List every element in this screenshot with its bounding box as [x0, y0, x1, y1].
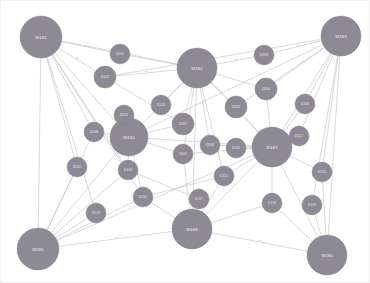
graph-edge[interactable] — [51, 55, 89, 123]
graph-node[interactable]: D102 — [94, 66, 116, 88]
graph-edge[interactable] — [323, 56, 338, 162]
node-label: W182 — [191, 66, 203, 71]
graph-node[interactable]: W186 — [307, 235, 347, 275]
node-label: W183 — [335, 34, 347, 39]
graph-node[interactable]: W182 — [177, 48, 217, 88]
node-label: D119 — [308, 203, 316, 207]
node-label: W184 — [123, 135, 135, 140]
graph-node[interactable]: W188 — [172, 209, 212, 249]
node-label: W188 — [186, 227, 198, 232]
node-label: D111 — [179, 152, 187, 156]
node-label: W187 — [266, 145, 278, 150]
graph-node[interactable]: D110 — [226, 138, 246, 158]
graph-node[interactable]: W185 — [17, 228, 59, 270]
graph-node[interactable]: D121 — [114, 105, 134, 125]
graph-node[interactable]: D118 — [262, 193, 282, 213]
graph-edge[interactable] — [206, 161, 258, 214]
node-label: D103 — [260, 53, 268, 57]
graph-node[interactable]: D104 — [255, 78, 277, 100]
graph-node[interactable]: W181 — [20, 16, 62, 58]
graph-node[interactable]: D107 — [172, 113, 194, 135]
graph-edge[interactable] — [279, 210, 312, 241]
edge-label: r8 — [258, 239, 261, 242]
node-label: D109 — [206, 143, 214, 147]
graph-node[interactable]: D106 — [295, 94, 315, 114]
graph-edge[interactable] — [267, 100, 270, 127]
node-label: D122 — [295, 134, 303, 138]
node-label: D113 — [124, 168, 132, 172]
graph-edge[interactable] — [151, 202, 175, 218]
graph-node[interactable]: D103 — [254, 45, 274, 65]
graph-node[interactable]: W183 — [321, 16, 361, 56]
graph-edge[interactable] — [38, 58, 40, 228]
node-label: D121 — [120, 113, 128, 117]
graph-node[interactable]: D123 — [151, 95, 171, 115]
graph-node[interactable]: D113 — [118, 160, 138, 180]
node-label: D114 — [220, 174, 228, 178]
graph-edge[interactable] — [211, 206, 262, 223]
node-label: D106 — [301, 102, 309, 106]
network-graph-panel: r1r2r3r4r5r6r7r8 W181W182W183W184W187W18… — [0, 0, 370, 283]
graph-node[interactable]: D108 — [84, 122, 104, 142]
graph-edge[interactable] — [290, 156, 313, 168]
graph-node[interactable]: D101 — [110, 44, 130, 64]
node-label: D117 — [195, 197, 203, 201]
graph-edge[interactable] — [275, 48, 325, 83]
graph-node[interactable]: W187 — [252, 127, 292, 167]
node-label: D110 — [232, 146, 240, 150]
node-label: D115 — [318, 170, 326, 174]
node-label: D108 — [90, 130, 98, 134]
node-label: W181 — [35, 35, 47, 40]
edge-label: r2 — [76, 57, 79, 60]
graph-node[interactable]: D120 — [86, 203, 106, 223]
node-label: D102 — [101, 75, 109, 79]
graph-edge[interactable] — [303, 54, 333, 126]
graph-node[interactable]: D112 — [67, 157, 87, 177]
graph-edge[interactable] — [310, 54, 332, 95]
nodes-layer[interactable]: W181W182W183W184W187W185W188W186D101D102… — [17, 16, 361, 275]
graph-node[interactable]: D122 — [289, 126, 309, 146]
node-label: D112 — [73, 165, 81, 169]
graph-edge[interactable] — [243, 115, 258, 132]
graph-edge[interactable] — [328, 56, 339, 235]
node-label: D123 — [157, 103, 165, 107]
node-label: D105 — [232, 105, 240, 109]
graph-edge[interactable] — [147, 127, 172, 133]
graph-edge[interactable] — [147, 143, 173, 151]
node-label: D118 — [268, 201, 276, 205]
node-label: D116 — [139, 195, 147, 199]
node-label: W186 — [321, 253, 333, 258]
graph-edge[interactable] — [47, 141, 90, 230]
graph-node[interactable]: D117 — [189, 189, 209, 209]
node-label: D120 — [92, 211, 100, 215]
graph-node[interactable]: D116 — [133, 187, 153, 207]
node-label: D107 — [179, 122, 187, 126]
graph-node[interactable]: D115 — [312, 162, 332, 182]
node-label: D104 — [262, 87, 270, 91]
node-label: W185 — [32, 247, 44, 252]
graph-edge[interactable] — [184, 164, 189, 209]
network-graph-canvas[interactable]: r1r2r3r4r5r6r7r8 W181W182W183W184W187W18… — [0, 0, 370, 283]
graph-node[interactable]: D111 — [173, 144, 193, 164]
graph-edge[interactable] — [323, 182, 326, 235]
graph-edge[interactable] — [200, 88, 208, 135]
graph-node[interactable]: D119 — [302, 195, 322, 215]
graph-node[interactable]: D109 — [200, 135, 220, 155]
graph-edge[interactable] — [130, 56, 177, 65]
node-label: D101 — [116, 52, 124, 56]
graph-node[interactable]: D114 — [214, 166, 234, 186]
graph-node[interactable]: D105 — [225, 96, 247, 118]
